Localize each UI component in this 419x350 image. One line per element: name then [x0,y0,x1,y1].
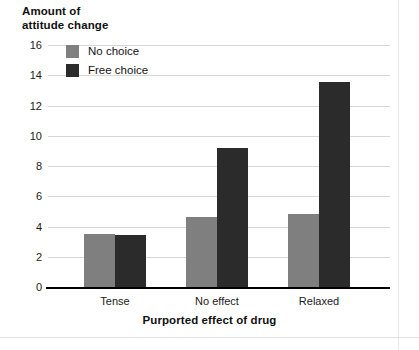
bar-chart-figure: Amount of attitude change 0246810121416 … [0,0,419,350]
x-tick-label-tense: Tense [100,295,129,307]
y-tick-label: 0 [36,281,42,293]
figure-bottom-border [0,337,419,338]
bar-tense-no-choice [84,234,115,287]
y-tick-label: 6 [36,190,42,202]
plot-area: 0246810121416 TenseNo effectRelaxed [48,45,390,287]
y-tick-label: 4 [36,221,42,233]
legend-label-no-choice: No choice [88,45,139,57]
bar-relaxed-free-choice [319,82,350,287]
y-tick-label: 14 [30,69,42,81]
x-axis-line [46,287,390,289]
legend-item-no-choice: No choice [66,43,148,59]
y-tick-label: 12 [30,100,42,112]
y-tick-label: 10 [30,130,42,142]
y-tick-label: 2 [36,251,42,263]
y-tick-label: 8 [36,160,42,172]
legend-swatch-no-choice [66,45,79,58]
chart-legend: No choice Free choice [66,43,148,81]
y-axis-title: Amount of attitude change [22,4,108,32]
y-tick-label: 16 [30,39,42,51]
bar-no-effect-no-choice [186,217,217,287]
legend-item-free-choice: Free choice [66,62,148,78]
x-tick-label-no-effect: No effect [195,295,239,307]
bar-tense-free-choice [115,235,146,287]
bar-relaxed-no-choice [288,214,319,287]
x-axis-title: Purported effect of drug [0,314,419,326]
x-tick-label-relaxed: Relaxed [299,295,339,307]
legend-label-free-choice: Free choice [88,64,148,76]
figure-right-border [398,0,399,350]
legend-swatch-free-choice [66,64,79,77]
bar-no-effect-free-choice [217,148,248,287]
